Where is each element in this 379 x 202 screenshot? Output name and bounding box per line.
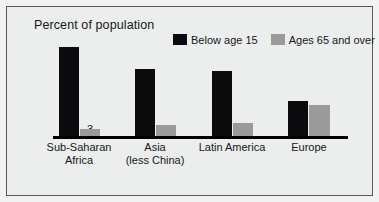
bar-rect-black	[288, 101, 308, 136]
category-label-sub-saharan-africa: Sub-Saharan Africa	[39, 141, 119, 167]
category-label-line: Asia	[115, 141, 195, 154]
bar-rect-black	[59, 47, 79, 136]
category-label-latin-america: Latin America	[192, 141, 272, 154]
bar-group-europe: 17 15	[288, 0, 330, 136]
bar-rect-gray	[156, 125, 176, 136]
bar-rect-gray	[233, 123, 253, 136]
axis-baseline	[53, 136, 348, 139]
bar-rect-gray	[309, 105, 330, 136]
category-label-asia-less-china: Asia (less China)	[115, 141, 195, 167]
bar-group-latin-america: 32 6	[212, 0, 252, 136]
category-label-europe: Europe	[269, 141, 349, 154]
category-label-line: (less China)	[115, 154, 195, 167]
category-label-line: Latin America	[192, 141, 272, 154]
chart-plot-area: Percent of population Below age 15 Ages …	[0, 0, 379, 202]
category-label-line: Sub-Saharan	[39, 141, 119, 154]
bar-rect-gray	[80, 129, 100, 136]
category-label-line: Africa	[39, 154, 119, 167]
chart-figure: Percent of population Below age 15 Ages …	[0, 0, 379, 202]
bar-rect-black	[135, 69, 155, 136]
bar-rect-black	[212, 71, 232, 136]
bars-layer: 44 3 33 5	[0, 0, 379, 136]
bar-group-sub-saharan-africa: 44 3	[59, 0, 99, 136]
bar-group-asia-less-china: 33 5	[135, 0, 175, 136]
category-label-line: Europe	[269, 141, 349, 154]
